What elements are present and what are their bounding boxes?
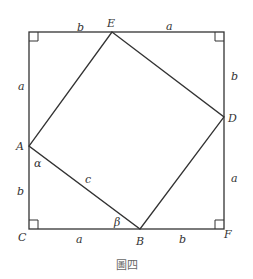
label-top-left-b: b	[77, 21, 84, 34]
pythagorean-diagram: E D A C B F b a a b b a a b c α β	[0, 0, 253, 279]
label-right-upper-b: b	[231, 70, 238, 83]
right-angle-marker-c	[29, 220, 38, 229]
label-left-upper-a: a	[18, 80, 25, 93]
right-angle-marker-top-left	[29, 32, 38, 41]
vertex-c-label: C	[18, 231, 27, 244]
outer-square	[29, 32, 224, 229]
label-bottom-right-b: b	[179, 233, 186, 246]
vertex-e-label: E	[106, 17, 115, 30]
label-bottom-left-a: a	[76, 233, 83, 246]
vertex-d-label: D	[227, 112, 237, 125]
right-angle-marker-top-right	[215, 32, 224, 41]
right-angle-marker-f	[215, 220, 224, 229]
figure-caption: 圖四	[0, 256, 253, 272]
angle-alpha-label: α	[34, 157, 42, 170]
vertex-b-label: B	[135, 235, 144, 248]
vertex-f-label: F	[223, 228, 232, 241]
angle-beta-label: β	[113, 216, 120, 229]
label-left-lower-b: b	[17, 185, 24, 198]
vertex-a-label: A	[15, 140, 24, 153]
inner-square	[29, 32, 224, 229]
label-top-right-a: a	[166, 20, 173, 33]
label-right-lower-a: a	[231, 172, 238, 185]
label-hypotenuse-c: c	[85, 173, 91, 186]
